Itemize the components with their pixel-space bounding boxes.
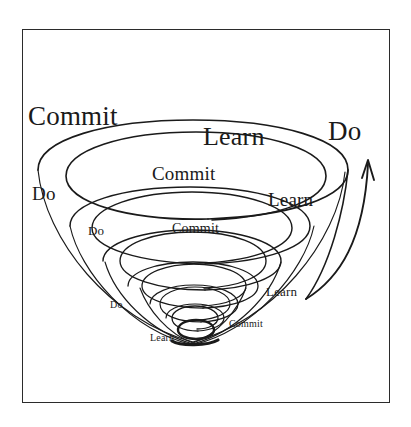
label-do-ring2: Do <box>32 184 56 203</box>
label-commit-ring1: Commit <box>28 103 118 130</box>
label-do-ring4: Do <box>110 300 123 310</box>
label-commit-ring2: Commit <box>152 164 216 183</box>
label-learn-ring2: Learn <box>268 190 313 209</box>
diagram-root: Commit Learn Do Do Commit Learn Do Commi… <box>0 0 411 427</box>
label-learn-ring4: Learn <box>150 333 174 343</box>
label-learn-ring1: Learn <box>203 124 265 150</box>
exit-arrow <box>306 160 374 299</box>
spiral-funnel-graphic <box>0 0 411 427</box>
label-do-ring1: Do <box>328 118 361 145</box>
label-do-ring3: Do <box>88 224 104 237</box>
label-commit-ring4: Commit <box>229 319 263 329</box>
label-learn-ring3: Learn <box>266 285 297 298</box>
label-commit-ring3: Commit <box>172 222 219 236</box>
